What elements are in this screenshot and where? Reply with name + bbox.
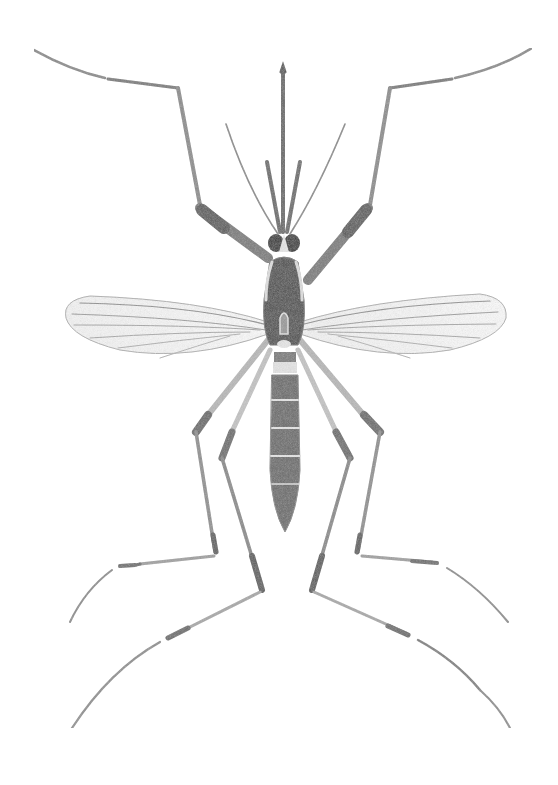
middle-leg-right (300, 340, 508, 622)
antennae (226, 124, 345, 234)
head (268, 234, 300, 252)
thorax (264, 257, 305, 348)
hind-leg-left (72, 350, 270, 728)
proboscis (281, 66, 285, 232)
middle-leg-left (70, 340, 268, 622)
hind-leg-right (298, 350, 510, 728)
abdomen (270, 352, 300, 532)
wing-left (66, 296, 269, 358)
front-leg-left (34, 50, 268, 258)
wing-right (300, 294, 506, 358)
mosquito-illustration (0, 0, 558, 785)
front-leg-right (308, 48, 532, 280)
